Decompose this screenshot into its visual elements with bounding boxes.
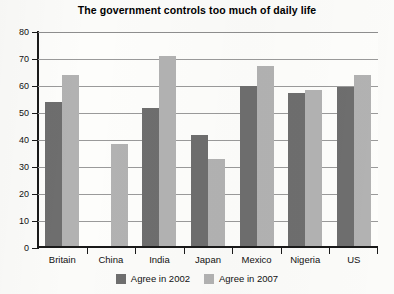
bar-mexico-2007 (257, 66, 274, 248)
bar-britain-2002 (45, 102, 62, 248)
x-label-britain: Britain (38, 254, 87, 265)
bar-india-2002 (142, 108, 159, 248)
y-tick-label-30: 30 (19, 162, 29, 172)
bar-group-india (135, 32, 184, 248)
bar-group-japan (184, 32, 233, 248)
bar-britain-2007 (62, 75, 79, 248)
chart-legend: Agree in 2002 Agree in 2007 (0, 273, 394, 284)
plot-area: 80706050403020100 (38, 32, 378, 248)
x-label-china: China (87, 254, 136, 265)
bar-japan-2002 (191, 135, 208, 248)
y-tick-label-70: 70 (19, 54, 29, 64)
bar-china-2007 (111, 144, 128, 248)
bar-us-2007 (354, 75, 371, 248)
x-axis-line (38, 246, 378, 248)
bar-group-britain (38, 32, 87, 248)
bar-us-2002 (337, 87, 354, 248)
bar-japan-2007 (208, 159, 225, 248)
bar-groups (38, 32, 378, 248)
y-tick-label-60: 60 (19, 81, 29, 91)
bar-mexico-2002 (240, 86, 257, 248)
y-tick-label-40: 40 (19, 135, 29, 145)
y-tick-label-80: 80 (19, 27, 29, 37)
x-label-india: India (135, 254, 184, 265)
bar-group-china (87, 32, 136, 248)
y-tick-0 (32, 248, 38, 249)
y-tick-label-0: 0 (24, 243, 29, 253)
x-axis-labels: BritainChinaIndiaJapanMexicoNigeriaUS (38, 254, 378, 265)
y-tick-label-10: 10 (19, 216, 29, 226)
x-label-mexico: Mexico (232, 254, 281, 265)
chart-title: The government controls too much of dail… (0, 4, 394, 16)
legend-item-2007: Agree in 2007 (204, 273, 278, 284)
x-label-japan: Japan (184, 254, 233, 265)
bar-nigeria-2002 (288, 93, 305, 248)
legend-label-2007: Agree in 2007 (219, 273, 278, 284)
bar-india-2007 (159, 56, 176, 248)
x-label-us: US (329, 254, 378, 265)
bar-chart: The government controls too much of dail… (0, 0, 394, 294)
x-label-nigeria: Nigeria (281, 254, 330, 265)
bar-group-us (329, 32, 378, 248)
legend-swatch-2007 (204, 274, 214, 284)
bar-group-nigeria (281, 32, 330, 248)
y-tick-label-50: 50 (19, 108, 29, 118)
legend-item-2002: Agree in 2002 (116, 273, 190, 284)
bar-nigeria-2007 (305, 90, 322, 248)
legend-swatch-2002 (116, 274, 126, 284)
bar-group-mexico (232, 32, 281, 248)
legend-label-2002: Agree in 2002 (131, 273, 190, 284)
y-tick-label-20: 20 (19, 189, 29, 199)
